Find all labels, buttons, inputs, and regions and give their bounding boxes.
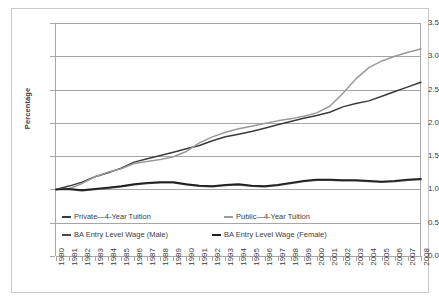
legend-label-wage-female: BA Entry Level Wage (Female) (224, 230, 327, 239)
legend-swatch-private-tuition (62, 216, 71, 218)
legend-label-private-tuition: Private—4-Year Tuition (74, 212, 151, 221)
legend-swatch-public-tuition (224, 216, 233, 218)
gridline-y (56, 156, 421, 157)
x-tick-label: 2003 (356, 259, 365, 268)
x-tick-label: 1986 (134, 259, 143, 268)
y-tick-mark (50, 156, 55, 157)
y-tick-mark (50, 23, 55, 24)
x-tick-label: 1987 (147, 259, 156, 268)
x-tick-label: 1991 (199, 259, 208, 268)
x-tick-label: 1999 (304, 259, 313, 268)
x-tick-label: 1995 (252, 259, 261, 268)
y-tick-mark (50, 56, 55, 57)
y-tick-mark (50, 189, 55, 190)
x-tick-label: 2000 (317, 259, 326, 268)
y-tick-label: 3.5 (395, 19, 439, 27)
x-tick-label: 1996 (265, 259, 274, 268)
x-tick-label: 2005 (382, 259, 391, 268)
x-tick-label: 1980 (56, 259, 65, 268)
chart-figure: Percentage Private—4-Year Tuition Public… (0, 0, 439, 302)
x-tick-label: 1998 (291, 259, 300, 268)
y-tick-label: 1.5 (395, 152, 439, 160)
chart-legend: Private—4-Year Tuition Public—4-Year Tui… (62, 212, 352, 246)
x-tick-label: 2006 (395, 259, 404, 268)
gridline-y (56, 189, 421, 190)
x-tick-label: 1981 (69, 259, 78, 268)
y-tick-label: 0.5 (395, 219, 439, 227)
gridline-y (56, 56, 421, 57)
y-tick-label: 3.0 (395, 52, 439, 60)
x-tick-label: 1997 (278, 259, 287, 268)
x-tick-label: 2002 (343, 259, 352, 268)
y-tick-mark (50, 223, 55, 224)
y-tick-label: 1.0 (395, 185, 439, 193)
y-tick-mark (50, 256, 55, 257)
x-tick-label: 1985 (121, 259, 130, 268)
x-tick-label: 1984 (108, 259, 117, 268)
x-tick-label: 1988 (160, 259, 169, 268)
y-tick-label: 2.5 (395, 86, 439, 94)
x-tick-label: 1982 (82, 259, 91, 268)
legend-label-wage-male: BA Entry Level Wage (Male) (74, 230, 168, 239)
x-tick-label: 2007 (408, 259, 417, 268)
x-tick-label: 1989 (173, 259, 182, 268)
x-tick-label: 2008 (421, 259, 430, 268)
gridline-y (56, 123, 421, 124)
legend-swatch-wage-male (62, 234, 71, 236)
legend-label-public-tuition: Public—4-Year Tuition (236, 212, 310, 221)
x-tick-label: 2004 (369, 259, 378, 268)
x-tick-label: 1993 (225, 259, 234, 268)
y-axis-title: Percentage (23, 74, 32, 144)
legend-entry-private-tuition[interactable]: Private—4-Year Tuition (62, 212, 151, 221)
x-tick-label: 1992 (212, 259, 221, 268)
gridline-y (56, 90, 421, 91)
legend-entry-public-tuition[interactable]: Public—4-Year Tuition (224, 212, 310, 221)
x-tick-label: 1983 (95, 259, 104, 268)
x-tick-label: 2001 (330, 259, 339, 268)
gridline-y (56, 23, 421, 24)
y-tick-mark (50, 90, 55, 91)
legend-entry-wage-female[interactable]: BA Entry Level Wage (Female) (212, 230, 327, 239)
x-tick-label: 1990 (186, 259, 195, 268)
legend-swatch-wage-female (212, 234, 221, 236)
y-tick-mark (50, 123, 55, 124)
y-tick-label: 2.0 (395, 119, 439, 127)
x-tick-label: 1994 (239, 259, 248, 268)
legend-entry-wage-male[interactable]: BA Entry Level Wage (Male) (62, 230, 168, 239)
